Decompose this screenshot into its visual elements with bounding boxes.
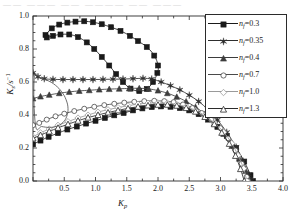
x-axis-tick-label: 4.0: [274, 184, 290, 193]
data-point-marker: [84, 121, 89, 126]
data-point-marker: [118, 28, 123, 33]
legend-item-3[interactable]: nf=0.7: [206, 66, 288, 83]
data-point-marker: [196, 98, 202, 105]
x-axis-label-sub: p: [124, 202, 127, 209]
data-point-marker: [99, 54, 104, 59]
legend-label: nf=1.0: [239, 87, 259, 97]
data-point-marker: [65, 20, 70, 25]
legend-marker-filled-triangle-icon: [218, 53, 229, 64]
legend-marker-open-circle-icon: [218, 70, 229, 81]
data-point-marker: [93, 118, 98, 123]
x-axis-label: Kp: [118, 198, 127, 209]
data-point-marker: [56, 131, 61, 136]
data-point-marker: [73, 19, 78, 24]
data-point-marker: [44, 35, 49, 40]
data-point-marker: [109, 25, 114, 30]
legend-line-sample: [208, 104, 238, 114]
data-point-marker: [112, 113, 117, 118]
data-point-marker: [167, 82, 173, 89]
x-axis-tick-label: 1.5: [118, 184, 136, 193]
data-point-marker: [102, 115, 107, 120]
y-axis-label-main: K: [5, 89, 15, 95]
y-axis-tick-label: 0.2: [8, 143, 29, 152]
data-point-marker: [53, 114, 58, 119]
data-point-marker: [65, 127, 70, 132]
data-point-marker: [112, 101, 117, 106]
legend-label-value: =0.3: [245, 19, 260, 28]
data-point-marker: [44, 117, 49, 122]
data-point-marker: [72, 109, 77, 114]
data-point-marker: [158, 78, 164, 85]
data-point-marker: [102, 103, 107, 108]
legend-label-value: =1.3: [245, 104, 260, 113]
legend-item-2[interactable]: nf=0.4: [206, 49, 288, 66]
legend-line-sample: [208, 36, 238, 46]
legend-marker-open-triangle-icon: [218, 104, 229, 115]
x-axis-tick-label: 1.0: [87, 184, 105, 193]
series-nf=0.3: [43, 19, 161, 94]
chart-legend: nf=0.3nf=0.35nf=0.4nf=0.7nf=1.0nf=1.3: [205, 14, 287, 118]
data-point-marker: [144, 45, 149, 50]
data-point-marker: [156, 63, 161, 68]
data-point-marker: [220, 106, 226, 112]
legend-item-5[interactable]: nf=1.3: [206, 100, 288, 117]
y-axis-label-sub: s: [9, 86, 16, 89]
data-point-marker: [92, 47, 97, 52]
data-point-marker: [51, 33, 56, 38]
legend-line-sample: [208, 53, 238, 63]
data-point-marker: [177, 86, 183, 93]
data-point-marker: [91, 20, 96, 25]
data-point-marker: [155, 70, 160, 75]
y-axis-tick-label: 0.0: [8, 176, 29, 185]
legend-label-value: =1.0: [245, 87, 260, 96]
legend-label-value: =0.7: [245, 70, 260, 79]
data-point-marker: [37, 120, 42, 125]
data-point-marker: [67, 32, 72, 37]
data-point-marker: [114, 72, 119, 77]
data-point-marker: [220, 89, 226, 95]
x-axis-tick-label: 3.5: [243, 184, 261, 193]
legend-label-value: =0.35: [245, 36, 264, 45]
data-point-marker: [220, 37, 226, 44]
data-point-marker: [46, 134, 51, 139]
legend-line-sample: [208, 19, 238, 29]
x-axis-tick-label: 2.5: [180, 184, 198, 193]
data-point-marker: [152, 53, 157, 58]
data-point-marker: [174, 94, 180, 100]
data-point-marker: [221, 55, 227, 61]
x-axis-tick-label: 2.0: [149, 184, 167, 193]
legend-item-4[interactable]: nf=1.0: [206, 83, 288, 100]
y-axis-tick-label: 0.6: [8, 77, 29, 86]
legend-line-sample: [208, 70, 238, 80]
data-point-marker: [99, 22, 104, 27]
data-point-marker: [76, 35, 81, 40]
legend-label: nf=0.4: [239, 53, 259, 63]
data-point-marker: [136, 39, 141, 44]
y-axis-tick-label: 0.8: [8, 44, 29, 53]
figure-container: —— ——— —— ———— —— ——— Ks/s−1 Kp nf=0.3nf…: [0, 0, 290, 223]
legend-marker-filled-star-icon: [218, 36, 229, 47]
data-point-marker: [127, 33, 132, 38]
data-point-marker: [38, 138, 43, 143]
data-point-marker: [107, 63, 112, 68]
data-point-marker: [31, 142, 36, 147]
legend-item-0[interactable]: nf=0.3: [206, 15, 288, 32]
legend-label: nf=0.7: [239, 70, 259, 80]
legend-item-1[interactable]: nf=0.35: [206, 32, 288, 49]
data-point-marker: [57, 22, 62, 27]
legend-marker-filled-square-icon: [218, 19, 229, 30]
legend-label: nf=0.3: [239, 19, 259, 29]
data-point-marker: [221, 72, 226, 77]
legend-label: nf=0.35: [239, 36, 263, 46]
x-axis-tick-label: 0.5: [55, 184, 73, 193]
data-point-marker: [82, 19, 87, 24]
data-point-marker: [131, 108, 136, 113]
y-axis-tick-label: 0.4: [8, 110, 29, 119]
data-point-marker: [82, 106, 87, 111]
y-axis-tick-label: 1.0: [8, 11, 29, 20]
data-point-marker: [84, 40, 89, 45]
legend-label-value: =0.4: [245, 53, 260, 62]
data-point-marker: [31, 123, 36, 128]
legend-line-sample: [208, 87, 238, 97]
x-axis-tick-label: 3.0: [212, 184, 230, 193]
